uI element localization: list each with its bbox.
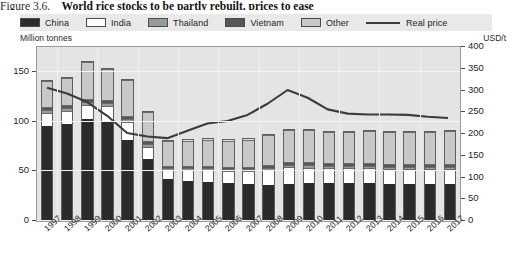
left-axis-unit: Million tonnes <box>20 33 72 43</box>
legend-item-other[interactable]: Other <box>301 18 349 28</box>
page-title: World rice stocks to be partly rebuilt, … <box>62 0 314 10</box>
right-tick-350: 350 <box>468 62 498 73</box>
right-tick-100: 100 <box>468 171 498 182</box>
real-price-line <box>37 47 460 221</box>
vertical-gridline <box>97 47 98 221</box>
right-tick-400: 400 <box>468 40 498 51</box>
left-tickmark <box>32 170 36 171</box>
legend-item-india[interactable]: India <box>86 18 131 28</box>
vertical-gridline <box>339 47 340 221</box>
legend-item-real-price[interactable]: Real price <box>366 18 448 28</box>
legend-label: Other <box>326 18 349 28</box>
right-tick-200: 200 <box>468 127 498 138</box>
right-tickmark <box>461 111 465 112</box>
left-tickmark <box>32 71 36 72</box>
legend-swatch-china <box>20 18 40 27</box>
right-tickmark <box>461 133 465 134</box>
legend-label: China <box>45 18 69 28</box>
legend-item-thailand[interactable]: Thailand <box>148 18 208 28</box>
vertical-gridline <box>138 47 139 221</box>
legend-label: Real price <box>406 18 448 28</box>
right-tickmark <box>461 90 465 91</box>
plot-area <box>36 46 461 222</box>
real-price-polyline <box>47 88 448 138</box>
figure-title-bar: Figure 3.6. World rice stocks to be part… <box>0 0 512 10</box>
chart-legend: ChinaIndiaThailandVietnamOtherReal price <box>20 14 492 31</box>
vertical-gridline <box>218 47 219 221</box>
right-tickmark <box>461 68 465 69</box>
right-tick-250: 250 <box>468 105 498 116</box>
legend-swatch-thailand <box>148 18 168 27</box>
legend-line-real-price <box>366 22 400 24</box>
figure-container: Figure 3.6. World rice stocks to be part… <box>0 0 512 262</box>
left-tick-50: 50 <box>3 164 29 175</box>
legend-label: India <box>111 18 131 28</box>
gridline <box>37 170 460 171</box>
vertical-gridline <box>259 47 260 221</box>
legend-label: Thailand <box>173 18 208 28</box>
legend-item-china[interactable]: China <box>20 18 69 28</box>
vertical-gridline <box>178 47 179 221</box>
legend-swatch-other <box>301 18 321 27</box>
gridline <box>37 121 460 122</box>
legend-swatch-india <box>86 18 106 27</box>
right-tick-0: 0 <box>468 214 498 225</box>
left-tickmark <box>32 121 36 122</box>
right-tickmark <box>461 155 465 156</box>
right-tickmark <box>461 177 465 178</box>
left-tick-150: 150 <box>3 65 29 76</box>
figure-number: Figure 3.6. <box>0 0 50 10</box>
right-tick-300: 300 <box>468 84 498 95</box>
right-tickmark <box>461 198 465 199</box>
left-tick-100: 100 <box>3 115 29 126</box>
left-tickmark <box>32 220 36 221</box>
vertical-gridline <box>299 47 300 221</box>
legend-label: Vietnam <box>250 18 284 28</box>
right-tick-50: 50 <box>468 192 498 203</box>
legend-swatch-vietnam <box>225 18 245 27</box>
gridline <box>37 71 460 72</box>
vertical-gridline <box>57 47 58 221</box>
right-tickmark <box>461 46 465 47</box>
right-tick-150: 150 <box>468 149 498 160</box>
legend-item-vietnam[interactable]: Vietnam <box>225 18 284 28</box>
left-tick-0: 0 <box>3 214 29 225</box>
vertical-gridline <box>420 47 421 221</box>
vertical-gridline <box>379 47 380 221</box>
